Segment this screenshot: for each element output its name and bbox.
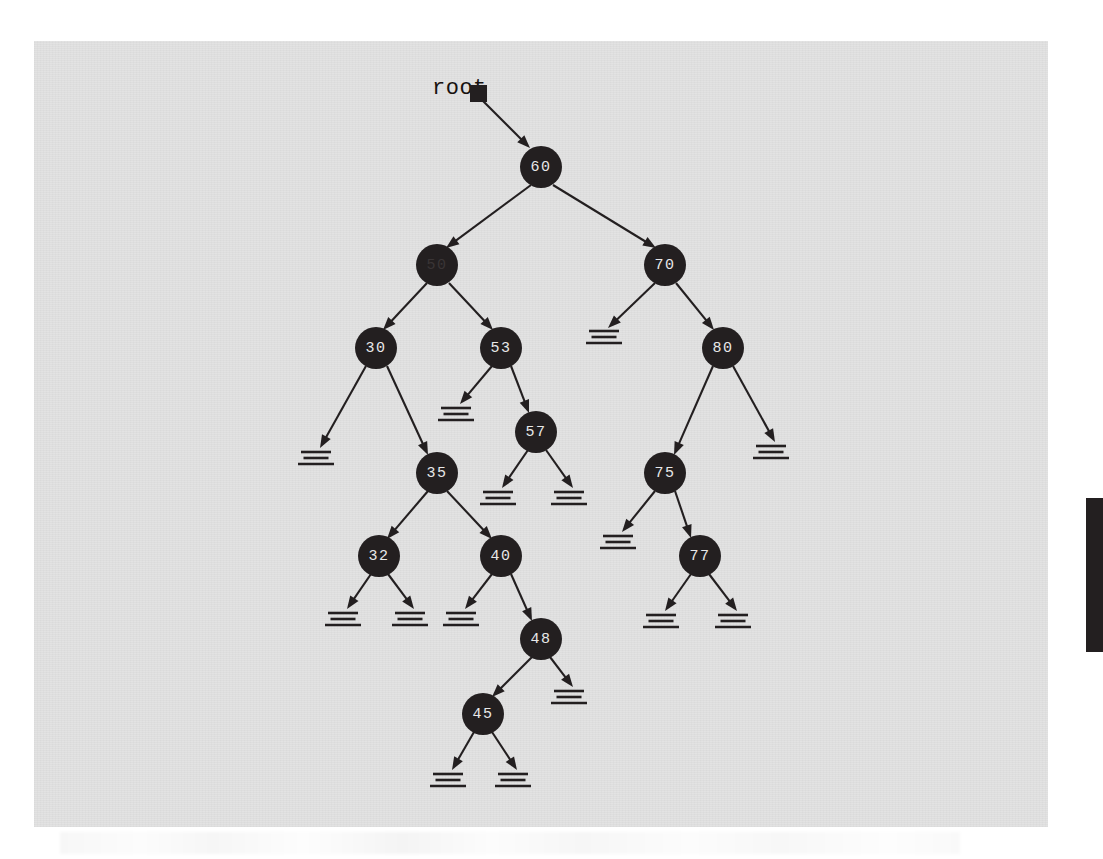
tree-node-label: 32: [368, 548, 389, 565]
tree-edge: [674, 366, 713, 455]
tree-node[interactable]: 80: [702, 327, 744, 369]
tree-edge: [347, 574, 371, 609]
tree-node-label: 45: [472, 706, 493, 723]
tree-edge: [675, 491, 692, 538]
tree-node-label: 80: [712, 340, 733, 357]
tree-node[interactable]: 77: [679, 535, 721, 577]
tree-edge: [553, 185, 656, 248]
tree-edge: [452, 732, 474, 770]
tree-edge: [492, 657, 532, 697]
null-pointer-ground-marker: [715, 615, 751, 627]
tree-node[interactable]: 40: [480, 535, 522, 577]
tree-edge: [387, 491, 428, 539]
root-pointer-box: [470, 85, 487, 102]
tree-edge: [665, 574, 691, 611]
tree-edge: [511, 574, 532, 621]
tree-edge: [460, 366, 492, 404]
tree-edge: [320, 366, 366, 448]
tree-edge: [388, 574, 414, 609]
null-pointer-ground-marker: [551, 691, 587, 703]
tree-node[interactable]: 75: [644, 452, 686, 494]
null-pointer-ground-marker: [430, 774, 466, 786]
tree-node[interactable]: 32: [358, 535, 400, 577]
figure-root: 6050703053805735753240774845 root: [0, 0, 1103, 859]
tree-node[interactable]: 53: [480, 327, 522, 369]
tree-node[interactable]: 45: [462, 693, 504, 735]
tree-node[interactable]: 48: [520, 618, 562, 660]
tree-edge: [733, 366, 775, 442]
tree-node-label: 75: [654, 465, 675, 482]
binary-search-tree-canvas: 6050703053805735753240774845 root: [0, 0, 1103, 859]
tree-edge: [550, 657, 573, 687]
null-pointer-ground-marker: [480, 492, 516, 504]
tree-node-label: 77: [689, 548, 710, 565]
tree-edge: [709, 574, 737, 611]
null-pointer-ground-marker: [298, 452, 334, 464]
tree-node-label: 35: [426, 465, 447, 482]
tree-node-label: 70: [654, 257, 675, 274]
tree-node[interactable]: 57: [515, 411, 557, 453]
tree-edge: [608, 283, 655, 328]
tree-node-label: 50: [426, 257, 447, 274]
tree-node-label: 60: [530, 159, 551, 176]
tree-edge: [502, 450, 528, 488]
tree-node[interactable]: 50: [416, 244, 458, 286]
tree-edge: [492, 732, 517, 770]
null-pointer-ground-marker: [392, 613, 428, 625]
tree-edge: [546, 450, 573, 488]
tree-edge: [446, 185, 531, 248]
tree-node-label: 40: [490, 548, 511, 565]
null-pointer-ground-marker: [551, 492, 587, 504]
null-pointer-ground-marker: [495, 774, 531, 786]
tree-edge: [383, 283, 427, 330]
root-pointer-layer: root: [432, 76, 487, 102]
tree-node-label: 53: [490, 340, 511, 357]
tree-edge: [449, 283, 493, 330]
null-pointer-ground-marker: [600, 536, 636, 548]
tree-node-label: 48: [530, 631, 551, 648]
tree-edge: [482, 100, 530, 148]
tree-edge: [676, 283, 714, 330]
tree-node[interactable]: 70: [644, 244, 686, 286]
null-pointer-ground-marker: [753, 446, 789, 458]
tree-edge: [447, 491, 492, 539]
tree-edge: [622, 491, 655, 532]
null-pointer-ground-marker: [325, 613, 361, 625]
tree-node[interactable]: 35: [416, 452, 458, 494]
tree-edge: [387, 366, 428, 455]
null-pointer-ground-marker: [586, 331, 622, 343]
null-pointer-ground-marker: [643, 615, 679, 627]
tree-node[interactable]: 30: [355, 327, 397, 369]
tree-edge: [511, 366, 529, 413]
null-pointer-ground-marker: [438, 408, 474, 420]
tree-node-label: 30: [365, 340, 386, 357]
tree-nodes-layer: 6050703053805735753240774845: [355, 146, 744, 735]
null-pointer-ground-marker: [443, 613, 479, 625]
tree-edge: [465, 574, 492, 609]
tree-node-label: 57: [525, 424, 546, 441]
tree-node[interactable]: 60: [520, 146, 562, 188]
